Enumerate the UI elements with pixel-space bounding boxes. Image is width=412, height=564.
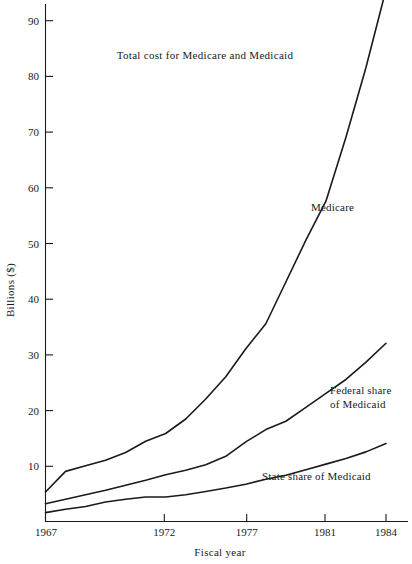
- federal-share-annotation-line1: Federal share: [330, 384, 392, 396]
- y-tick-label-90: 90: [28, 15, 40, 27]
- y-tick-label-40: 40: [28, 293, 40, 305]
- medicare-annotation: Medicare: [311, 201, 354, 213]
- series-line-medicare: [46, 0, 387, 492]
- chart-title: Total cost for Medicare and Medicaid: [117, 49, 294, 61]
- x-axis-tick-labels: 1967 1972 1977 1981 1984: [35, 526, 398, 538]
- chart-canvas: 10 20 30 40 50 60 70 80 90 1967 1972 197…: [0, 0, 412, 564]
- y-tick-label-20: 20: [28, 405, 40, 417]
- y-axis-title: Billions ($): [4, 263, 17, 317]
- y-tick-label-70: 70: [28, 126, 40, 138]
- x-tick-label-1981: 1981: [314, 526, 336, 538]
- x-tick-label-1984: 1984: [375, 526, 398, 538]
- x-axis-title: Fiscal year: [194, 546, 245, 558]
- y-axis-tick-labels: 10 20 30 40 50 60 70 80 90: [28, 15, 40, 473]
- chart-figure: 10 20 30 40 50 60 70 80 90 1967 1972 197…: [0, 0, 412, 564]
- y-tick-label-60: 60: [28, 182, 40, 194]
- x-tick-label-1967: 1967: [35, 526, 58, 538]
- federal-share-annotation-line2: of Medicaid: [330, 398, 386, 410]
- x-tick-label-1972: 1972: [153, 526, 175, 538]
- x-tick-label-1977: 1977: [236, 526, 259, 538]
- y-tick-label-80: 80: [28, 70, 40, 82]
- y-axis-ticks: [46, 21, 54, 467]
- y-tick-label-10: 10: [28, 460, 40, 472]
- y-tick-label-50: 50: [28, 238, 40, 250]
- y-tick-label-30: 30: [28, 349, 40, 361]
- state-share-annotation: State share of Medicaid: [262, 470, 371, 482]
- x-axis-ticks: [46, 514, 387, 522]
